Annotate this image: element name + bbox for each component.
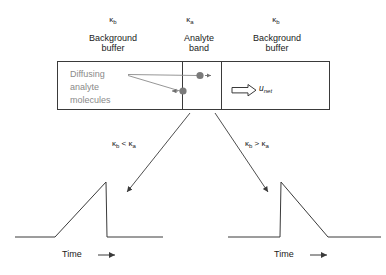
annotation-line-1: Diffusing [70,68,111,81]
heading-line-1: Analyte [169,33,229,43]
region-heading-analyte-band: Analyte band [169,33,229,53]
heading-line-2: buffer [227,43,327,53]
net-velocity-label: unet [259,84,272,94]
annotation-line-3: molecules [70,94,111,107]
kappa-subscript: a [132,143,135,149]
kappa-subscript: b [276,19,279,25]
kappa-subscript: b [113,19,116,25]
kappa-subscript: a [190,19,193,25]
kappa-subscript: a [265,143,268,149]
heading-line-2: band [169,43,229,53]
figure-canvas: κb κa κb Background buffer Analyte band … [0,0,386,275]
region-heading-background-buffer-left: Background buffer [63,33,163,53]
comparison-operator: > [255,139,260,148]
kappa-label-right: κb [266,16,286,25]
plot-tailing-peak [228,182,381,255]
time-axis-label-right: Time [274,249,294,259]
kappa-label-center: κa [180,16,200,25]
branch-label-kb-gt-ka: κb > κa [245,140,269,149]
time-axis-label-left: Time [62,249,82,259]
net-velocity-arrow-icon [232,85,256,96]
kappa-label-left: κb [103,16,123,25]
diffusion-leader-lines [128,75,197,92]
heading-line-1: Background [63,33,163,43]
velocity-subscript: net [264,88,272,94]
branch-label-kb-lt-ka: κb < κa [112,140,136,149]
heading-line-1: Background [227,33,327,43]
kappa-subscript: b [249,143,252,149]
plot-fronting-peak [15,182,163,255]
diffusing-analyte-annotation: Diffusing analyte molecules [70,68,111,107]
analyte-molecule-upper [196,72,211,79]
branch-connectors [127,113,268,192]
heading-line-2: buffer [63,43,163,53]
annotation-line-2: analyte [70,81,111,94]
kappa-subscript: b [116,143,119,149]
region-heading-background-buffer-right: Background buffer [227,33,327,53]
comparison-operator: < [122,139,127,148]
